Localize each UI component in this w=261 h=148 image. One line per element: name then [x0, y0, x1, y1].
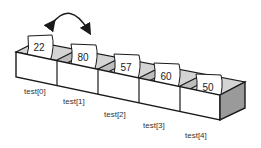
array-diagram: 22 80 57 60 50 test[0] test[1] test[2]	[0, 0, 261, 148]
swap-arrow-icon	[52, 13, 88, 30]
cell-label-3: test[3]	[143, 121, 165, 130]
cell-value-3: 60	[160, 71, 172, 82]
cell-value-1: 80	[77, 52, 89, 63]
cell-label-0: test[0]	[24, 87, 46, 96]
cell-label-1: test[1]	[63, 97, 85, 106]
cell-value-2: 57	[120, 62, 132, 73]
cell-label-4: test[4]	[185, 131, 207, 140]
cell-value-0: 22	[33, 42, 45, 53]
cell-label-2: test[2]	[104, 110, 126, 119]
